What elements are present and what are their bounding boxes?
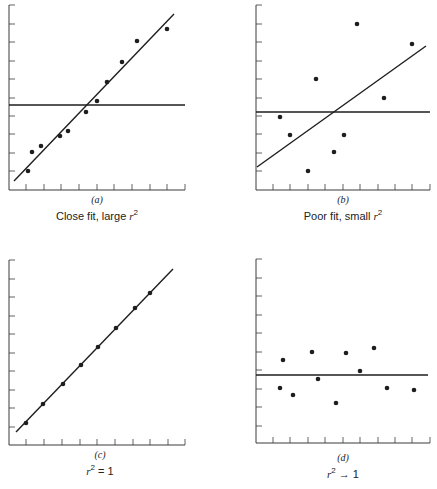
panel-a-data-point bbox=[30, 150, 35, 155]
panel-c-data-point bbox=[96, 345, 101, 350]
panel-d-data-point bbox=[281, 358, 286, 363]
panel-b-labels: (b) Poor fit, small r2 bbox=[263, 194, 423, 222]
panel-b-data-point bbox=[410, 42, 415, 47]
panel-d-data-point bbox=[385, 386, 390, 391]
panel-a-id: (a) bbox=[17, 194, 177, 205]
panel-a-data-point bbox=[120, 60, 125, 65]
panel-b-caption: Poor fit, small r2 bbox=[263, 208, 423, 222]
panel-a-data-point bbox=[39, 144, 44, 149]
panel-a-data-point bbox=[135, 39, 140, 44]
panel-b-data-point bbox=[332, 150, 337, 155]
panel-a-data-point bbox=[26, 169, 31, 174]
panel-b-data-point bbox=[288, 133, 293, 138]
panel-d-data-point bbox=[334, 401, 339, 406]
panel-d-data-point bbox=[291, 393, 296, 398]
panel-a-data-point bbox=[58, 134, 63, 139]
panel-d-data-point bbox=[310, 350, 315, 355]
panel-c-data-point bbox=[148, 291, 153, 296]
panel-b-regression-line bbox=[257, 46, 426, 167]
panel-b-data-point bbox=[382, 96, 387, 101]
panel-a-data-point bbox=[105, 80, 110, 85]
panel-a-regression-line bbox=[14, 14, 174, 181]
panel-a-labels: (a) Close fit, large r2 bbox=[17, 194, 177, 222]
panel-b-data-point bbox=[355, 22, 360, 27]
panel-d-data-point bbox=[278, 386, 283, 391]
panel-c-data-point bbox=[114, 326, 119, 331]
panel-a-caption: Close fit, large r2 bbox=[17, 208, 177, 222]
panel-d-data-point bbox=[372, 346, 377, 351]
panel-d-id: (d) bbox=[263, 452, 423, 463]
panel-b-data-point bbox=[342, 133, 347, 138]
panel-c-data-point bbox=[79, 363, 84, 368]
panel-a-data-point bbox=[66, 129, 71, 134]
panel-d-data-point bbox=[412, 388, 417, 393]
panel-b-data-point bbox=[278, 115, 283, 120]
panel-c-data-point bbox=[61, 382, 66, 387]
panel-c-data-point bbox=[41, 402, 46, 407]
panel-a-data-point bbox=[95, 99, 100, 104]
panel-d-data-point bbox=[358, 369, 363, 374]
scatter-figure bbox=[0, 0, 437, 489]
panel-c-caption: r2 = 1 bbox=[20, 463, 180, 477]
panel-a-data-point bbox=[165, 27, 170, 32]
panel-c-id: (c) bbox=[20, 449, 180, 460]
panel-d-data-point bbox=[344, 351, 349, 356]
panel-c-data-point bbox=[133, 306, 138, 311]
panel-c-data-point bbox=[24, 421, 29, 426]
panel-b-data-point bbox=[314, 77, 319, 82]
panel-d-labels: (d) r2 → 1 bbox=[263, 452, 423, 480]
panel-b-id: (b) bbox=[263, 194, 423, 205]
panel-d-data-point bbox=[316, 377, 321, 382]
panel-a-data-point bbox=[84, 110, 89, 115]
panel-c-labels: (c) r2 = 1 bbox=[20, 449, 180, 477]
panel-d-caption: r2 → 1 bbox=[263, 466, 423, 480]
panel-b-data-point bbox=[306, 169, 311, 174]
